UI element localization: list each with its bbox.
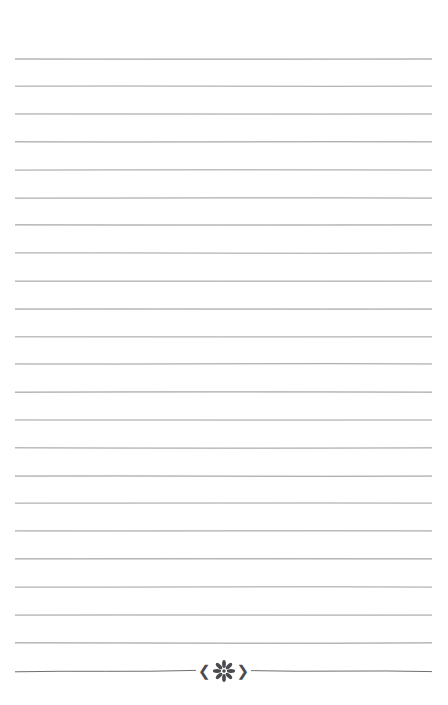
ruled-line bbox=[15, 85, 432, 87]
ruled-line bbox=[15, 586, 432, 588]
divider-rule-right bbox=[251, 658, 432, 684]
ruled-line bbox=[15, 336, 432, 338]
ruled-line bbox=[15, 141, 432, 143]
ruled-line bbox=[15, 169, 432, 171]
ornament-cluster: ❮ bbox=[196, 659, 251, 683]
ruled-line bbox=[15, 475, 432, 477]
ornament-divider-line: ❮ bbox=[15, 658, 432, 684]
ruled-line bbox=[15, 308, 432, 310]
ruled-line bbox=[15, 530, 432, 532]
ruled-line bbox=[15, 642, 432, 644]
ruled-line bbox=[15, 419, 432, 421]
right-chevron-icon: ❯ bbox=[237, 663, 250, 678]
ruled-line bbox=[15, 113, 432, 115]
ruled-line bbox=[15, 363, 432, 365]
lined-paper-page: ❮ bbox=[0, 0, 448, 705]
ruled-line bbox=[15, 558, 432, 560]
ruled-line bbox=[15, 58, 432, 60]
ruled-line bbox=[15, 280, 432, 282]
ruled-line bbox=[15, 391, 432, 393]
divider-rule-left bbox=[15, 658, 196, 684]
ruled-line bbox=[15, 502, 432, 504]
ruled-line bbox=[15, 197, 432, 199]
ruled-line bbox=[15, 252, 432, 254]
left-chevron-icon: ❮ bbox=[198, 663, 211, 678]
ruled-line bbox=[15, 447, 432, 449]
ruled-line bbox=[15, 224, 432, 226]
ruled-line bbox=[15, 614, 432, 616]
eight-petal-flower-icon bbox=[212, 659, 236, 683]
